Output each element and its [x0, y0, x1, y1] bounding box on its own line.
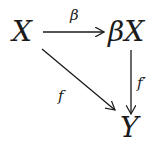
label-f-prime: f′ [137, 76, 146, 91]
arrow-f [42, 49, 115, 110]
node-beta-x: βX [108, 18, 144, 46]
label-beta: β [70, 8, 79, 23]
node-x: X [12, 18, 32, 46]
label-f: f [58, 89, 64, 104]
node-y: Y [120, 114, 138, 142]
